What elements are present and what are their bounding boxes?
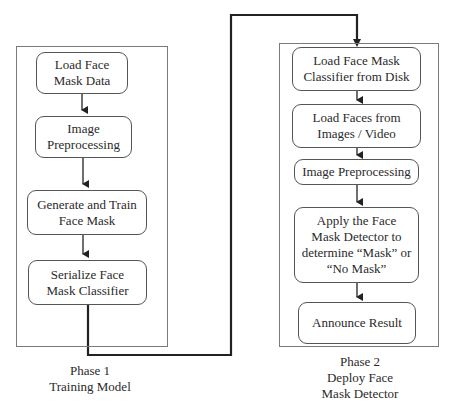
step-load-faces: Load Faces fromImages / Video <box>292 104 421 148</box>
caption-text: Mask Detector <box>295 386 425 402</box>
phase2-caption: Phase 2 Deploy Face Mask Detector <box>295 354 425 402</box>
step-text: determine “Mask” or <box>302 245 412 261</box>
step-image-preprocessing: ImagePreprocessing <box>35 116 132 158</box>
step-text: Load Face Mask <box>303 53 409 69</box>
caption-text: Phase 2 <box>295 354 425 370</box>
caption-text: Phase 1 <box>30 363 150 379</box>
step-announce-result: Announce Result <box>298 302 416 344</box>
step-text: Apply the Face <box>302 213 412 229</box>
step-serialize-classifier: Serialize FaceMask Classifier <box>28 260 147 305</box>
caption-text: Deploy Face <box>295 370 425 386</box>
phase1-caption: Phase 1 Training Model <box>30 363 150 395</box>
step-text: Mask Data <box>54 73 111 89</box>
step-load-face-mask-data: Load FaceMask Data <box>36 52 128 94</box>
step-load-classifier: Load Face MaskClassifier from Disk <box>292 47 421 91</box>
step-text: Face Mask <box>37 213 137 229</box>
step-text: Image <box>47 121 120 137</box>
step-text: Images / Video <box>312 126 400 142</box>
step-text: Mask Detector to <box>302 229 412 245</box>
step-text: Announce Result <box>312 315 402 331</box>
step-text: Classifier from Disk <box>303 69 409 85</box>
step-text: Generate and Train <box>37 197 137 213</box>
step-text: Image Preprocessing <box>302 164 411 180</box>
step-text: Load Faces from <box>312 110 400 126</box>
step-text: “No Mask” <box>302 261 412 277</box>
step-text: Load Face <box>54 57 111 73</box>
step-image-preprocessing-2: Image Preprocessing <box>294 159 419 185</box>
step-text: Preprocessing <box>47 137 120 153</box>
step-generate-train: Generate and TrainFace Mask <box>27 190 147 235</box>
step-text: Serialize Face <box>47 267 129 283</box>
step-apply-detector: Apply the Face Mask Detector to determin… <box>294 207 419 283</box>
step-text: Mask Classifier <box>47 283 129 299</box>
caption-text: Training Model <box>30 379 150 395</box>
